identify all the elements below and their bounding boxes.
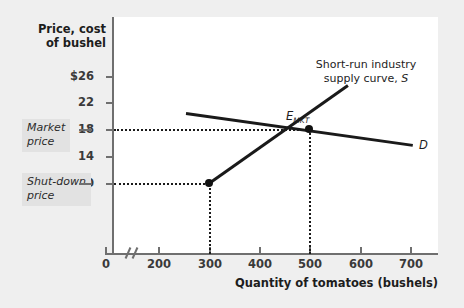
x-tick-700 bbox=[410, 247, 412, 253]
x-tick-label-700: 700 bbox=[391, 257, 431, 271]
equilibrium-qty-dotted-line bbox=[309, 130, 311, 254]
demand-curve-label: D bbox=[419, 138, 428, 152]
supply-curve-note: Short-run industry supply curve, S bbox=[296, 58, 436, 87]
market-price-note-line2: price bbox=[27, 135, 54, 148]
supply-note-line1: Short-run industry bbox=[316, 58, 417, 71]
x-tick-label-0: 0 bbox=[86, 257, 126, 271]
supply-note-symbol: S bbox=[401, 72, 408, 85]
shutdown-price-leader-line bbox=[79, 183, 92, 185]
x-axis-title: Quantity of tomatoes (bushels) bbox=[150, 276, 438, 290]
shutdown-price-dotted-line bbox=[114, 183, 209, 185]
shutdown-price-note-line2: price bbox=[27, 189, 54, 202]
x-tick-label-300: 300 bbox=[190, 257, 230, 271]
shutdown-price-note: Shut-down price bbox=[22, 173, 91, 206]
x-tick-0 bbox=[105, 247, 107, 253]
x-tick-600 bbox=[360, 247, 362, 253]
equilibrium-subscript: MKT bbox=[293, 116, 309, 125]
y-tick-label-26: $26 bbox=[70, 69, 94, 83]
x-tick-label-200: 200 bbox=[139, 257, 179, 271]
y-axis-title-line2: of bushel bbox=[46, 36, 106, 50]
y-axis-line bbox=[112, 17, 114, 255]
x-tick-label-600: 600 bbox=[341, 257, 381, 271]
x-tick-label-400: 400 bbox=[240, 257, 280, 271]
x-axis-line bbox=[105, 253, 438, 255]
equilibrium-label: EMKT bbox=[286, 109, 309, 125]
x-tick-label-500: 500 bbox=[290, 257, 330, 271]
y-axis-title: Price, cost of bushel bbox=[20, 22, 106, 51]
market-price-leader-line bbox=[79, 129, 92, 131]
y-axis-title-line1: Price, cost bbox=[38, 22, 106, 36]
x-tick-200 bbox=[158, 247, 160, 253]
equilibrium-point-marker bbox=[305, 125, 313, 133]
supply-note-line2: supply curve, bbox=[324, 72, 398, 85]
y-tick-label-22: 22 bbox=[78, 95, 94, 109]
shutdown-price-note-line1: Shut-down bbox=[27, 175, 86, 188]
market-price-note-line1: Market bbox=[27, 121, 65, 134]
y-tick-label-14: 14 bbox=[78, 149, 94, 163]
shutdown-qty-dotted-line bbox=[209, 184, 211, 254]
economics-supply-demand-figure: Price, cost of bushel $26 22 18 14 10 Ma… bbox=[0, 0, 464, 308]
market-price-note: Market price bbox=[22, 119, 70, 152]
shutdown-point-marker bbox=[205, 179, 213, 187]
x-tick-400 bbox=[259, 247, 261, 253]
